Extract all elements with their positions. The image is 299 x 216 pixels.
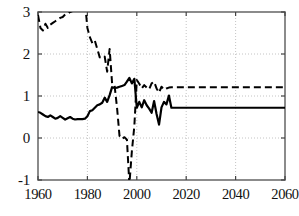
y-tick-label: 2 xyxy=(4,47,30,62)
x-tick-label: 2000 xyxy=(112,187,162,202)
x-tick-label: 1960 xyxy=(13,187,63,202)
x-tick-label: 2040 xyxy=(211,187,261,202)
y-tick-label: 1 xyxy=(4,89,30,104)
x-tick-label: 2020 xyxy=(161,187,211,202)
line-chart-plot xyxy=(0,0,299,216)
y-tick-label: 3 xyxy=(4,5,30,20)
grid-lines xyxy=(38,12,285,180)
dashed-series-line xyxy=(38,2,285,184)
y-tick-label: 0 xyxy=(4,131,30,146)
data-series-group xyxy=(38,2,285,184)
x-tick-label: 2060 xyxy=(260,187,299,202)
x-tick-label: 1980 xyxy=(62,187,112,202)
chart-container: -10123 196019802000202020402060 xyxy=(0,0,299,216)
solid-series-line xyxy=(38,78,285,125)
